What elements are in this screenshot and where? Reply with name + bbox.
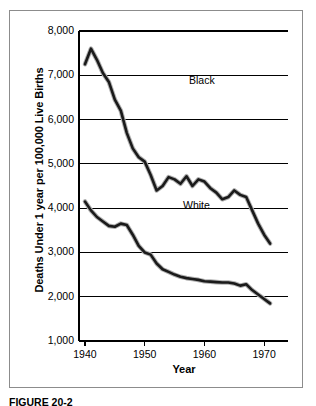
y-axis-tick-label: 1,000 (22, 334, 74, 346)
series-label-white: White (183, 199, 210, 211)
x-axis-title: Year (79, 363, 289, 375)
y-axis-tick-label: 6,000 (22, 113, 74, 125)
x-axis-tick-label: 1950 (125, 348, 165, 360)
x-axis-tick-label: 1960 (184, 348, 224, 360)
y-axis-tick-label: 3,000 (22, 245, 74, 257)
x-axis-tick-label: 1970 (244, 348, 284, 360)
y-axis-tick-label: 8,000 (22, 24, 74, 36)
y-axis-tick-label: 7,000 (22, 68, 74, 80)
figure-container: Deaths Under 1 year per 100,000 Live Bir… (0, 0, 316, 406)
x-axis-tick-label: 1940 (65, 348, 105, 360)
figure-caption: FIGURE 20-2 (9, 396, 73, 406)
y-axis-tick-label: 4,000 (22, 201, 74, 213)
y-axis-tick-label: 2,000 (22, 290, 74, 302)
y-axis-title: Deaths Under 1 year per 100,000 Live Bir… (33, 55, 45, 305)
series-label-black: Black (189, 74, 215, 86)
y-axis-tick-label: 5,000 (22, 157, 74, 169)
